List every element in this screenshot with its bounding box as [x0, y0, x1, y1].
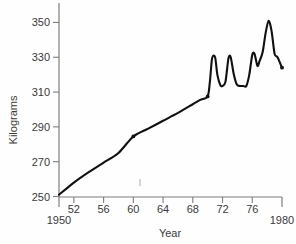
y-tick-label: 330	[32, 51, 50, 63]
y-tick-label: 310	[32, 86, 50, 98]
data-point-marker	[131, 135, 135, 139]
x-tick-label: 72	[216, 203, 228, 215]
x-tick-label: 56	[97, 203, 109, 215]
y-tick-label: 270	[32, 156, 50, 168]
y-axis-ticks	[53, 22, 59, 196]
y-axis-tick-labels: 250270290310330350	[32, 16, 50, 202]
x-axis: 1950525660646872761980	[47, 197, 294, 226]
x-axis-tick-labels: 1950525660646872761980	[47, 203, 294, 226]
data-point-markers	[131, 66, 283, 139]
x-tick-label: 76	[246, 203, 258, 215]
x-tick-label: 64	[157, 203, 169, 215]
line-chart-plot: 250270290310330350 195052566064687276198…	[0, 0, 296, 244]
x-tick-label: 60	[127, 203, 139, 215]
y-tick-label: 350	[32, 16, 50, 28]
data-point-marker	[280, 66, 284, 70]
data-point-marker	[206, 95, 210, 99]
y-tick-label: 290	[32, 121, 50, 133]
y-axis: 250270290310330350	[32, 3, 59, 203]
x-tick-label: 1950	[47, 214, 71, 226]
x-tick-label: 52	[68, 203, 80, 215]
chart-container: 250270290310330350 195052566064687276198…	[0, 0, 296, 244]
x-tick-label: 68	[187, 203, 199, 215]
y-tick-label: 250	[32, 191, 50, 203]
x-axis-title: Year	[159, 227, 182, 239]
data-series-line	[59, 21, 282, 195]
x-tick-label: 1980	[270, 214, 294, 226]
y-axis-title: Kilograms	[7, 95, 19, 144]
